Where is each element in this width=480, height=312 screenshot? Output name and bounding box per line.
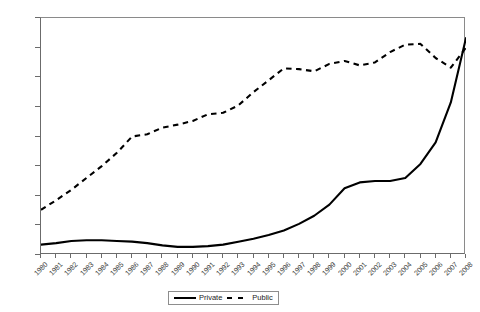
line-chart: 02004006008001000120014001600 1980198119…	[0, 0, 480, 312]
plot-area	[40, 17, 465, 254]
series-line-public	[41, 44, 466, 210]
legend-entry-public: Public	[227, 294, 272, 302]
legend-entry-private: Private	[174, 294, 222, 302]
legend-label-public: Public	[252, 294, 272, 302]
chart-legend: Private Public	[168, 291, 279, 305]
legend-swatch-dashed-icon	[227, 297, 249, 299]
series-line-private	[41, 38, 466, 247]
legend-swatch-solid-icon	[174, 297, 196, 299]
legend-label-private: Private	[199, 294, 222, 302]
series-layer	[41, 18, 466, 255]
